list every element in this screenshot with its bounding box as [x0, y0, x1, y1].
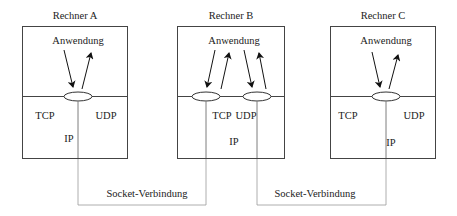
- computer-b: Rechner B Anwendung TCP UDP IP: [178, 10, 285, 159]
- arrow-up-icon: [389, 55, 398, 89]
- tcp-label: TCP: [212, 110, 231, 121]
- ip-label: IP: [229, 136, 238, 147]
- udp-label: UDP: [235, 110, 256, 121]
- arrow-up-icon: [259, 53, 266, 89]
- application-label: Anwendung: [52, 35, 104, 46]
- tcp-label: TCP: [35, 110, 54, 121]
- socket-ellipse-udp: [243, 92, 271, 101]
- socket-diagram: Rechner A Anwendung TCP UDP IP Rechner B…: [0, 0, 457, 216]
- arrow-down-icon: [207, 50, 215, 87]
- ip-label: IP: [64, 133, 73, 144]
- connection-label-a-b: Socket-Verbindung: [106, 188, 188, 199]
- socket-ellipse-tcp: [192, 92, 220, 101]
- connection-label-b-c: Socket-Verbindung: [274, 188, 356, 199]
- udp-label: UDP: [403, 110, 424, 121]
- application-label: Anwendung: [360, 35, 412, 46]
- socket-ellipse: [372, 92, 400, 101]
- arrow-down-icon: [244, 50, 252, 87]
- socket-ellipse: [64, 92, 92, 101]
- ip-label: IP: [386, 137, 395, 148]
- computer-c-title: Rechner C: [361, 10, 406, 21]
- application-label: Anwendung: [208, 35, 260, 46]
- tcp-label: TCP: [338, 110, 357, 121]
- computer-a-title: Rechner A: [53, 10, 98, 21]
- computer-c: Rechner C Anwendung TCP UDP IP: [331, 10, 436, 159]
- arrow-down-icon: [64, 50, 73, 87]
- arrow-up-icon: [82, 53, 91, 89]
- arrow-up-icon: [221, 53, 229, 89]
- computer-a: Rechner A Anwendung TCP UDP IP: [23, 10, 128, 159]
- udp-label: UDP: [95, 110, 116, 121]
- arrow-down-icon: [372, 52, 380, 87]
- computer-b-title: Rechner B: [209, 10, 254, 21]
